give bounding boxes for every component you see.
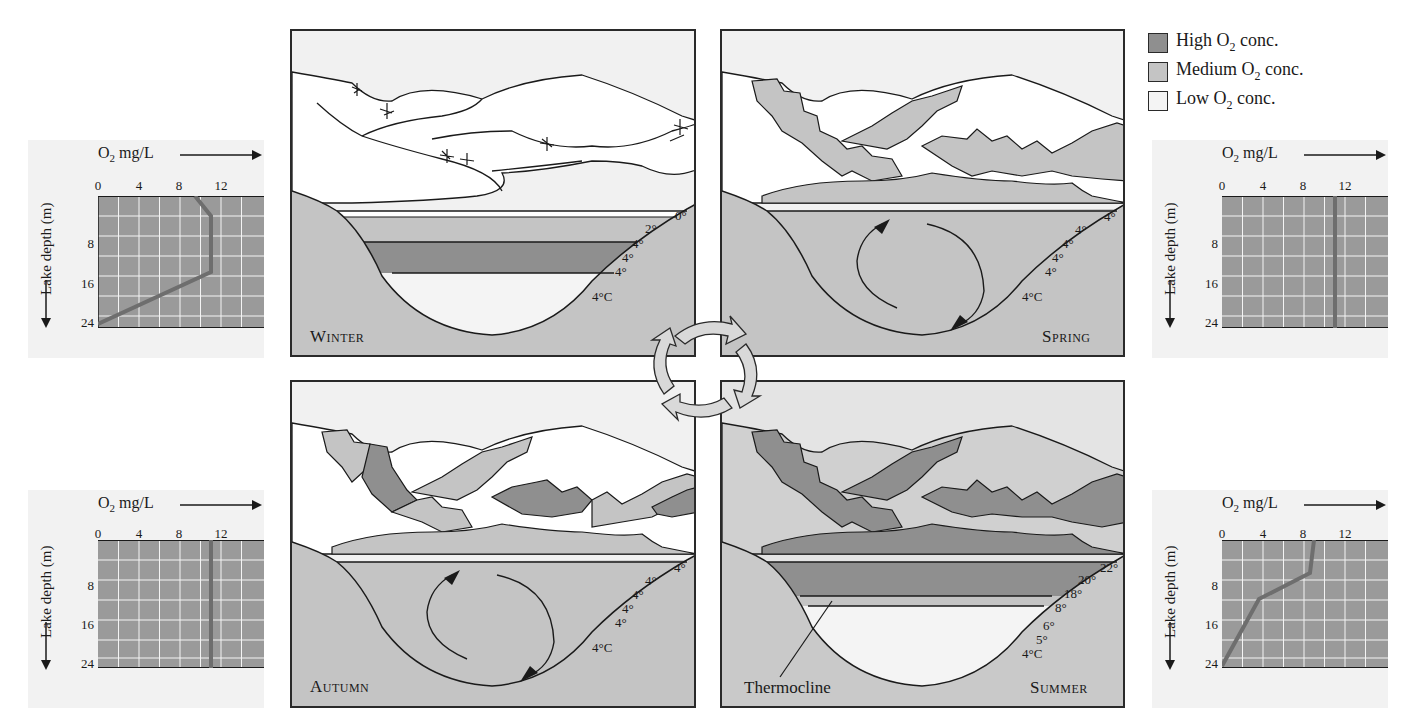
legend-label-low: Low O2 conc. [1176,88,1275,113]
y-axis-arrow-icon [38,280,54,330]
x-tick: 12 [1339,178,1352,194]
y-tick: 16 [72,276,94,292]
o2-plot-area [98,196,264,328]
legend-label-high: High O2 conc. [1176,30,1278,55]
y-tick: 24 [1196,656,1218,672]
season-label-spring: Spring [1042,327,1090,347]
y-tick: 8 [72,578,94,594]
y-tick: 8 [72,236,94,252]
o2-plot-area [1222,540,1388,668]
winter-temp-1: 0° [675,209,687,222]
legend-swatch-medium [1148,62,1168,82]
x-tick: 0 [1219,178,1226,194]
winter-temp-6: 4°C [592,290,612,303]
spring-temp-5: 4° [1045,265,1057,278]
y-axis-arrow-icon [38,622,54,672]
legend: High O2 conc. Medium O2 conc. Low O2 con… [1148,28,1303,115]
x-tick: 8 [1300,178,1307,194]
graph-x-axis-title: O2 mg/L [98,144,154,164]
y-axis-arrow-icon [1162,280,1178,330]
x-tick: 4 [1260,178,1267,194]
spring-scene [722,31,1125,357]
autumn-temp-2: 4° [645,574,657,587]
y-tick: 16 [72,617,94,633]
o2-plot-area [98,540,264,668]
thermocline-label: Thermocline [744,678,831,698]
summer-temp-4: 8° [1055,601,1067,614]
y-tick: 16 [1196,617,1218,633]
x-axis-arrow-icon [1302,144,1388,164]
spring-temp-1: 4° [1104,210,1116,223]
x-tick: 0 [95,178,102,194]
y-tick: 24 [72,315,94,331]
legend-item-low: Low O2 conc. [1148,86,1303,115]
summer-temp-7: 4°C [1022,647,1042,660]
winter-temp-5: 4° [615,265,627,278]
panel-spring: 4° 4° 4° 4° 4° 4°C Spring [720,29,1125,357]
panel-autumn: 4° 4° 4° 4° 4° 4°C Autumn [290,380,696,708]
autumn-temp-6: 4°C [592,641,612,654]
graph-x-axis-title: O2 mg/L [1222,144,1278,164]
summer-temp-5: 6° [1043,619,1055,632]
panel-winter: 0° 2° 4° 4° 4° 4°C Winter [290,29,696,357]
season-label-autumn: Autumn [310,677,369,697]
y-tick: 8 [1196,578,1218,594]
winter-temp-2: 2° [645,222,657,235]
summer-temp-1: 22° [1100,561,1118,574]
o2-plot-area [1222,196,1388,328]
winter-temp-4: 4° [622,251,634,264]
winter-temp-3: 4° [632,237,644,250]
autumn-temp-1: 4° [674,561,686,574]
autumn-temp-5: 4° [615,616,627,629]
x-axis-arrow-icon [178,494,264,514]
x-axis-arrow-icon [1302,494,1388,514]
autumn-scene [292,382,696,708]
graph-x-axis-title: O2 mg/L [1222,494,1278,514]
legend-swatch-high [1148,33,1168,53]
x-axis-arrow-icon [178,144,264,164]
o2-graph-spring: O2 mg/L 0 4 8 12 8 16 24 Lake depth (m) [1152,140,1388,358]
season-label-winter: Winter [310,327,364,347]
seasonal-cycle-icon [640,306,770,426]
y-tick: 8 [1196,236,1218,252]
winter-scene [292,31,696,357]
legend-item-high: High O2 conc. [1148,28,1303,57]
legend-swatch-low [1148,91,1168,111]
o2-graph-autumn: O2 mg/L 0 4 8 12 8 16 24 Lake depth (m) [28,490,264,708]
x-tick: 4 [136,178,143,194]
spring-temp-6: 4°C [1022,290,1042,303]
summer-scene [722,382,1125,708]
y-tick: 24 [1196,315,1218,331]
y-tick: 24 [72,656,94,672]
o2-graph-winter: O2 mg/L 0 4 8 12 8 16 24 Lake depth (m) [28,140,264,358]
summer-temp-6: 5° [1036,633,1048,646]
summer-temp-2: 20° [1078,573,1096,586]
spring-temp-3: 4° [1062,237,1074,250]
summer-temp-3: 18° [1064,587,1082,600]
x-tick: 12 [215,178,228,194]
o2-graph-summer: O2 mg/L 0 4 8 12 8 16 24 Lake depth (m) [1152,490,1388,708]
panel-summer: 22° 20° 18° 8° 6° 5° 4°C Thermocline Sum… [720,380,1125,708]
graph-x-axis-title: O2 mg/L [98,494,154,514]
y-axis-arrow-icon [1162,622,1178,672]
spring-temp-4: 4° [1052,251,1064,264]
legend-label-medium: Medium O2 conc. [1176,59,1303,84]
season-label-summer: Summer [1030,678,1088,698]
autumn-temp-4: 4° [622,602,634,615]
y-tick: 16 [1196,276,1218,292]
legend-item-medium: Medium O2 conc. [1148,57,1303,86]
x-tick: 8 [176,178,183,194]
autumn-temp-3: 4° [632,588,644,601]
spring-temp-2: 4° [1075,223,1087,236]
